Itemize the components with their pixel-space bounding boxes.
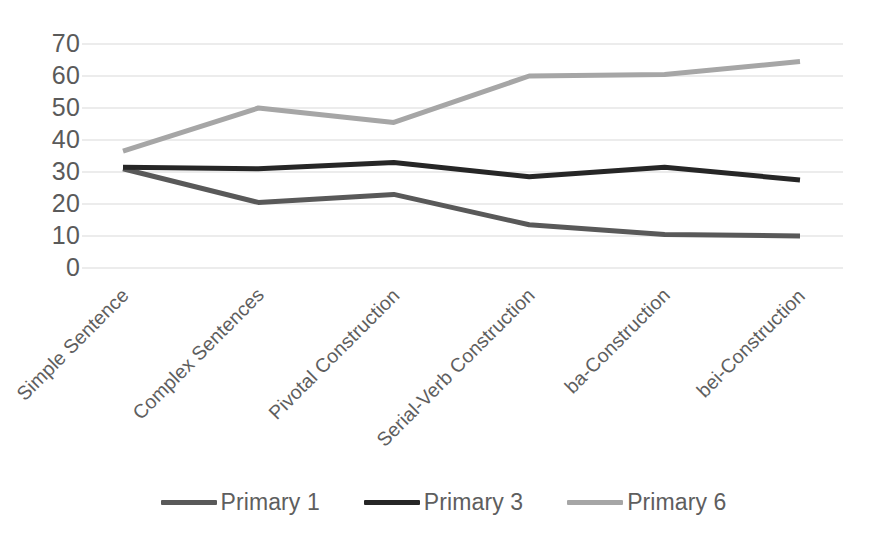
y-tick-label: 40 [24, 127, 80, 152]
legend-swatch-icon [161, 500, 217, 505]
series-line-1 [123, 169, 800, 236]
legend-label: Primary 3 [424, 490, 523, 514]
y-tick-label: 50 [24, 95, 80, 120]
y-tick-label: 60 [24, 63, 80, 88]
legend-label: Primary 6 [627, 490, 726, 514]
legend-item-2[interactable]: Primary 3 [364, 490, 523, 514]
x-tick-label: ba-Construction [560, 284, 674, 398]
legend-item-1[interactable]: Primary 1 [161, 490, 320, 514]
plot-area [0, 0, 887, 300]
legend-swatch-icon [364, 500, 420, 505]
x-tick-label: Pivotal Construction [264, 284, 404, 424]
y-tick-label: 30 [24, 159, 80, 184]
chart-legend: Primary 1Primary 3Primary 6 [0, 480, 887, 524]
plot-canvas [0, 0, 887, 300]
y-tick-label: 10 [24, 223, 80, 248]
x-tick-label: Complex Sentences [128, 284, 268, 424]
series-line-3 [123, 62, 800, 152]
y-axis-tick-labels: 706050403020100 [22, 0, 80, 300]
y-tick-label: 70 [24, 31, 80, 56]
series-lines [123, 62, 800, 236]
legend-label: Primary 1 [221, 490, 320, 514]
legend-swatch-icon [567, 500, 623, 505]
legend-item-3[interactable]: Primary 6 [567, 490, 726, 514]
x-tick-label: Simple Sentence [12, 284, 133, 405]
series-line-2 [123, 162, 800, 180]
x-tick-label: bei-Construction [692, 284, 809, 401]
y-tick-label: 20 [24, 191, 80, 216]
x-axis-tick-labels: Simple SentenceComplex SentencesPivotal … [0, 268, 887, 428]
x-tick-label: Serial-Verb Construction [372, 284, 539, 451]
line-chart: 706050403020100 Simple SentenceComplex S… [0, 0, 887, 542]
